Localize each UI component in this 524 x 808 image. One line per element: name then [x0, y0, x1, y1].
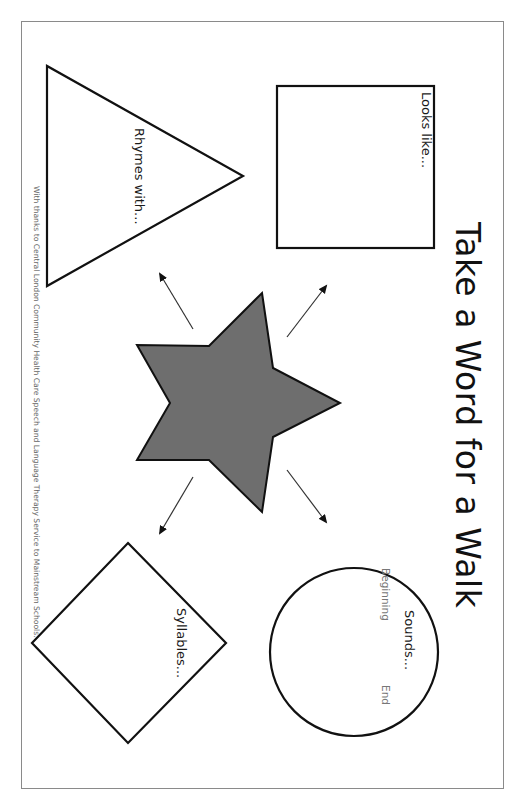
diamond-shape [32, 543, 226, 743]
worksheet-title: Take a Word for a Walk [448, 222, 487, 608]
arrow-to-circle [287, 470, 326, 522]
square-shape [277, 86, 434, 248]
arrow-to-diamond [160, 477, 193, 533]
star-shape [137, 293, 340, 512]
circle-sub-end: End [380, 685, 392, 705]
arrow-to-square [287, 286, 326, 337]
credit-text: With thanks to Central London Community … [32, 186, 41, 638]
circle-label: Sounds... [402, 610, 417, 670]
arrow-to-triangle [160, 274, 193, 329]
circle-sub-beginning: Beginning [380, 568, 392, 621]
square-label: Looks like... [419, 92, 434, 168]
worksheet-diagram [0, 0, 524, 808]
diamond-label: Syllables... [174, 608, 189, 678]
triangle-label: Rhymes with... [132, 128, 147, 225]
